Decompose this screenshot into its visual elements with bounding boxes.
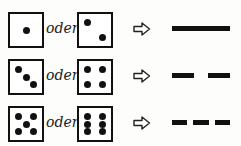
pip: [84, 121, 91, 128]
dash-segment: [172, 120, 187, 125]
die-face-4: [77, 59, 113, 95]
pip: [99, 121, 106, 128]
oder-label: oder: [46, 67, 78, 83]
pip: [84, 81, 91, 88]
outline-right-arrow-icon: [133, 115, 151, 129]
pip: [15, 113, 22, 120]
outline-right-arrow-icon: [133, 21, 151, 35]
dash-segment: [215, 120, 230, 125]
pip: [23, 27, 30, 34]
dash-segment: [193, 120, 208, 125]
pip: [84, 66, 91, 73]
die-face-6: [77, 106, 113, 142]
die-face-3: [8, 59, 44, 95]
die-face-2: [77, 12, 113, 48]
pip: [15, 66, 22, 73]
pip: [99, 113, 106, 120]
pip: [84, 19, 91, 26]
dash-segment: [172, 73, 194, 78]
pip: [84, 113, 91, 120]
pip: [99, 66, 106, 73]
dash-segment: [208, 73, 230, 78]
pip: [99, 81, 106, 88]
diagram-row: oder: [0, 59, 241, 93]
pip: [23, 74, 30, 81]
pip: [15, 128, 22, 135]
pip: [23, 121, 30, 128]
outline-right-arrow-icon: [133, 68, 151, 82]
die-face-5: [8, 106, 44, 142]
oder-label: oder: [46, 20, 78, 36]
pip: [99, 128, 106, 135]
oder-label: oder: [46, 114, 78, 130]
solid-line: [172, 26, 230, 31]
pip: [30, 81, 37, 88]
pip: [84, 128, 91, 135]
diagram-row: oder: [0, 12, 241, 46]
pip: [30, 128, 37, 135]
die-face-1: [8, 12, 44, 48]
pip: [30, 113, 37, 120]
diagram-row: oder: [0, 106, 241, 140]
pip: [99, 34, 106, 41]
